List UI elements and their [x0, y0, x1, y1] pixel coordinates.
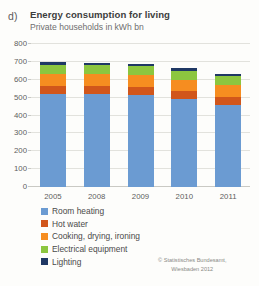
y-axis-tick-mark	[28, 115, 31, 116]
bar-segment	[84, 65, 110, 74]
y-axis-tick-mark	[28, 186, 31, 187]
legend-label: Hot water	[52, 219, 88, 229]
legend-label: Electrical equipment	[52, 244, 127, 254]
bar-segment	[40, 65, 66, 75]
chart-title: Energy consumption for living	[30, 9, 170, 20]
y-axis-tick-mark	[28, 43, 31, 44]
chart-figure: d) Energy consumption for living Private…	[0, 0, 259, 286]
bar-segment	[40, 94, 66, 187]
bar-segment	[40, 74, 66, 86]
y-axis-tick-label: 0	[23, 182, 27, 191]
chart-subtitle: Private households in kWh bn	[30, 22, 144, 32]
bar-2010: 2010	[171, 68, 197, 187]
plot-area: 0100200300400500600700800200520082009201…	[31, 44, 250, 187]
y-axis-tick-label: 700	[14, 56, 27, 65]
bar-segment	[84, 94, 110, 187]
x-axis-tick-label: 2010	[176, 192, 193, 201]
bar-segment	[128, 66, 154, 75]
bar-segment	[171, 99, 197, 187]
legend-item-4: Lighting	[41, 255, 140, 268]
y-axis-tick-mark	[28, 168, 31, 169]
y-axis-tick-label: 800	[14, 39, 27, 48]
bar-2011: 2011	[215, 74, 241, 187]
x-axis-tick-label: 2011	[220, 192, 237, 201]
bar-segment	[84, 86, 110, 94]
legend-swatch	[41, 233, 48, 240]
bar-segment	[171, 80, 197, 92]
y-axis-tick-mark	[28, 132, 31, 133]
bar-2005: 2005	[40, 62, 66, 187]
y-axis-tick-label: 100	[14, 164, 27, 173]
bar-segment	[84, 74, 110, 86]
legend-swatch	[41, 208, 48, 215]
y-axis-tick-label: 300	[14, 128, 27, 137]
legend-item-2: Cooking, drying, ironing	[41, 230, 140, 243]
legend-swatch	[41, 258, 48, 265]
bar-segment	[171, 71, 197, 80]
y-axis-tick-label: 500	[14, 92, 27, 101]
legend-item-1: Hot water	[41, 218, 140, 231]
y-axis-tick-label: 400	[14, 110, 27, 119]
legend-label: Cooking, drying, ironing	[52, 231, 140, 241]
y-axis-tick-label: 200	[14, 146, 27, 155]
bar-2009: 2009	[128, 64, 154, 187]
source-credit: © Statistisches Bundesamt, Wiesbaden 201…	[158, 256, 226, 273]
bar-segment	[128, 87, 154, 95]
gridline-800: 800	[31, 43, 250, 44]
bar-segment	[215, 105, 241, 187]
legend-item-0: Room heating	[41, 205, 140, 218]
bar-segment	[128, 95, 154, 187]
bar-segment	[215, 97, 241, 105]
legend-label: Room heating	[52, 206, 104, 216]
bar-segment	[40, 86, 66, 94]
source-line-1: © Statistisches Bundesamt,	[158, 256, 226, 265]
source-line-2: Wiesbaden 2012	[158, 265, 226, 274]
panel-letter: d)	[8, 10, 18, 22]
x-axis-tick-label: 2008	[88, 192, 105, 201]
legend-swatch	[41, 220, 48, 227]
bar-segment	[171, 91, 197, 99]
legend-item-3: Electrical equipment	[41, 243, 140, 256]
legend-label: Lighting	[52, 257, 81, 267]
bar-segment	[128, 75, 154, 87]
y-axis-tick-mark	[28, 150, 31, 151]
x-axis-tick-label: 2005	[44, 192, 61, 201]
y-axis-tick-mark	[28, 79, 31, 80]
chart-legend: Room heatingHot waterCooking, drying, ir…	[41, 205, 140, 268]
bar-segment	[215, 76, 241, 85]
y-axis-tick-mark	[28, 97, 31, 98]
bar-2008: 2008	[84, 63, 110, 187]
y-axis-tick-mark	[28, 61, 31, 62]
y-axis-tick-label: 600	[14, 74, 27, 83]
x-axis-tick-label: 2009	[132, 192, 149, 201]
legend-swatch	[41, 246, 48, 253]
bar-segment	[215, 85, 241, 97]
